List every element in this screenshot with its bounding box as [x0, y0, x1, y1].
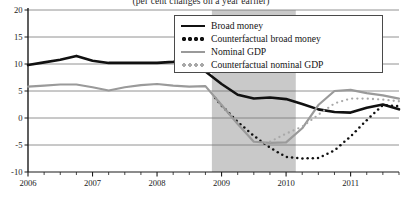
x-axis-tick-label: 2008 — [148, 178, 165, 188]
legend-item-counterfactual-nominal-gdp: Counterfactual nominal GDP — [180, 58, 377, 71]
legend-item-nominal-gdp: Nominal GDP — [180, 45, 377, 58]
chart-legend: Broad money Counterfactual broad money N… — [174, 15, 383, 73]
x-axis-tick-label: 2011 — [342, 178, 359, 188]
x-axis-labels-group: 200620072008200920102011 — [19, 178, 359, 188]
legend-swatch-dotted-grey-icon — [180, 59, 206, 71]
x-tick-marks-group — [28, 172, 399, 177]
legend-label-broad-money: Broad money — [211, 19, 263, 32]
legend-swatch-solid-grey-icon — [180, 46, 206, 58]
legend-swatch-solid-black-icon — [180, 20, 206, 32]
y-axis-tick-label: -10 — [11, 167, 22, 177]
legend-item-broad-money: Broad money — [180, 19, 377, 32]
chart-container: (per cent changes on a year earlier) 201… — [0, 0, 402, 207]
legend-swatch-dotted-black-icon — [180, 33, 206, 45]
y-axis-tick-label: 0 — [18, 113, 22, 123]
y-axis-tick-label: 15 — [14, 32, 23, 42]
x-axis-tick-label: 2010 — [277, 178, 294, 188]
x-axis-tick-label: 2007 — [84, 178, 102, 188]
legend-label-counterfactual-nominal-gdp: Counterfactual nominal GDP — [211, 58, 323, 71]
legend-label-nominal-gdp: Nominal GDP — [211, 45, 266, 58]
x-axis-tick-label: 2009 — [213, 178, 230, 188]
y-axis-tick-label: 10 — [14, 59, 23, 69]
y-axis-tick-label: 5 — [18, 86, 22, 96]
y-axis-labels-group: 20151050-5-10 — [11, 5, 22, 177]
y-axis-tick-label: -5 — [15, 140, 22, 150]
y-axis-tick-label: 20 — [14, 5, 23, 15]
legend-item-counterfactual-broad-money: Counterfactual broad money — [180, 32, 377, 45]
legend-label-counterfactual-broad-money: Counterfactual broad money — [211, 32, 321, 45]
x-axis-tick-label: 2006 — [19, 178, 37, 188]
